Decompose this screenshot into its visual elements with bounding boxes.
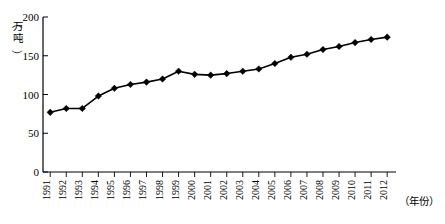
x-tick-label-1993: 1993 [73,180,84,200]
y-tick-label-50: 50 [28,127,40,139]
data-point-2008 [320,46,327,53]
y-tick-label-200: 200 [23,11,40,23]
data-point-2012 [384,34,391,41]
data-point-1999 [175,68,182,75]
x-tick-label-2000: 2000 [186,180,197,200]
x-axis-tick-marks [50,172,387,177]
y-tick-label-0: 0 [34,166,40,178]
x-tick-label-2009: 2009 [330,180,341,200]
x-tick-label-1996: 1996 [121,180,132,200]
x-tick-label-2001: 2001 [202,180,213,200]
data-point-1995 [111,85,118,92]
x-tick-label-2007: 2007 [298,180,309,200]
x-tick-label-1999: 1999 [170,180,181,200]
x-tick-label-2008: 2008 [314,180,325,200]
data-point-2001 [207,72,214,79]
data-point-1991 [47,109,54,116]
series-line-production [50,37,387,112]
y-axis-unit-paren-close: ） [11,50,23,60]
x-tick-label-1998: 1998 [154,180,165,200]
data-point-2010 [352,39,359,46]
line-chart: （ 万 吨 ） 050100150200 1991199219931994199… [0,0,445,224]
x-axis-tick-labels: 1991199219931994199519961997199819992000… [41,180,389,200]
data-point-2005 [272,60,279,67]
data-point-2002 [223,70,230,77]
x-tick-label-2010: 2010 [346,180,357,200]
data-point-2000 [191,71,198,78]
data-point-2004 [256,66,263,73]
data-point-1992 [63,105,70,112]
data-point-2007 [304,51,311,58]
y-tick-label-100: 100 [23,89,40,101]
y-axis-unit-char-1: 万 [13,20,23,32]
x-tick-label-2006: 2006 [282,180,293,200]
x-tick-label-2005: 2005 [266,180,277,200]
x-axis-caption: （年份） [399,195,439,207]
y-axis-tick-labels: 050100150200 [23,11,40,178]
x-tick-label-2003: 2003 [234,180,245,200]
x-tick-label-2012: 2012 [378,180,389,200]
y-tick-label-150: 150 [23,50,40,62]
x-tick-label-2011: 2011 [362,180,373,200]
data-point-1997 [143,79,150,86]
y-axis-unit-char-2: 吨 [13,32,24,44]
x-tick-label-1992: 1992 [57,180,68,200]
data-point-2009 [336,43,343,50]
data-point-2011 [368,36,375,43]
x-tick-label-2004: 2004 [250,180,261,200]
x-tick-label-1995: 1995 [105,180,116,200]
data-point-2006 [288,54,295,61]
chart-canvas: （ 万 吨 ） 050100150200 1991199219931994199… [0,0,445,224]
data-point-1996 [127,81,134,88]
data-point-1998 [159,76,166,83]
x-tick-label-2002: 2002 [218,180,229,200]
y-axis-tick-marks [43,17,48,172]
data-point-2003 [239,68,246,75]
x-tick-label-1991: 1991 [41,180,52,200]
x-tick-label-1997: 1997 [137,180,148,200]
x-tick-label-1994: 1994 [89,180,100,200]
